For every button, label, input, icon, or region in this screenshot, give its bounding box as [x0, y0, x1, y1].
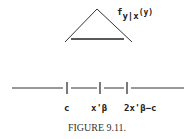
figure-caption: FIGURE 9.11. — [68, 122, 126, 133]
label-2xbeta-c: 2x'β−c — [124, 103, 157, 113]
figure-diagram: fy|x(y) c x'β 2x'β−c FIGURE 9.11. — [0, 0, 195, 139]
label-xbeta: x'β — [91, 103, 107, 113]
label-c: c — [64, 103, 69, 113]
number-line — [12, 82, 184, 94]
density-label: fy|x(y) — [117, 7, 153, 21]
